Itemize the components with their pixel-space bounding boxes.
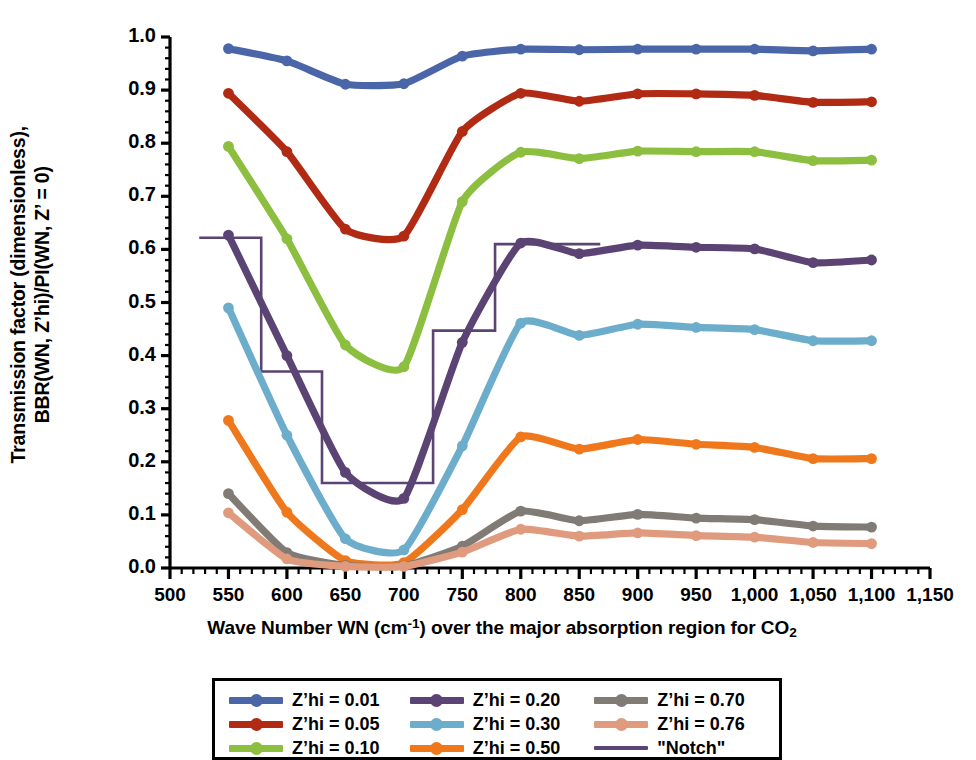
series-marker — [574, 531, 585, 542]
x-axis-title: Wave Number WN (cm-1) over the major abs… — [62, 616, 942, 640]
legend-item[interactable]: Z’hi = 0.05 — [229, 713, 410, 735]
series-marker — [632, 528, 643, 539]
series-marker — [749, 44, 760, 55]
series-marker — [340, 533, 351, 544]
y-tick-label: 0.2 — [100, 449, 156, 472]
series-marker — [632, 88, 643, 99]
legend-column-0: Z’hi = 0.01Z’hi = 0.05Z’hi = 0.10 — [229, 689, 410, 759]
series-marker — [340, 561, 351, 572]
series-marker — [282, 56, 293, 67]
series-1 — [223, 88, 877, 242]
series-marker — [808, 45, 819, 56]
series-marker — [515, 318, 526, 329]
series-marker — [749, 90, 760, 101]
series-marker — [866, 522, 877, 533]
series-marker — [632, 146, 643, 157]
series-marker — [574, 330, 585, 341]
series-marker — [574, 44, 585, 55]
series-marker — [866, 44, 877, 55]
legend-item[interactable]: Z’hi = 0.30 — [410, 713, 595, 735]
legend-swatch-icon — [229, 714, 283, 734]
series-marker — [282, 233, 293, 244]
series-marker — [457, 126, 468, 137]
series-marker — [515, 524, 526, 535]
y-tick-label: 0.3 — [100, 396, 156, 419]
series-marker — [282, 146, 293, 157]
legend-item[interactable]: "Notch" — [594, 737, 769, 759]
series-marker — [632, 319, 643, 330]
y-tick-label: 0.0 — [100, 555, 156, 578]
legend-item[interactable]: Z’hi = 0.01 — [229, 689, 410, 711]
series-marker — [282, 554, 293, 565]
legend-swatch-icon — [594, 690, 648, 710]
series-marker — [457, 547, 468, 558]
legend-column-2: Z’hi = 0.70Z’hi = 0.76"Notch" — [594, 689, 769, 759]
legend-label: Z’hi = 0.50 — [473, 738, 561, 759]
series-marker — [574, 96, 585, 107]
series-marker — [398, 545, 409, 556]
series-marker — [223, 141, 234, 152]
series-marker — [515, 88, 526, 99]
y-tick-label: 0.6 — [100, 236, 156, 259]
series-marker — [457, 337, 468, 348]
series-marker — [691, 146, 702, 157]
y-tick-label: 0.4 — [100, 343, 156, 366]
series-marker — [574, 515, 585, 526]
notch-step-line — [199, 238, 600, 483]
series-marker — [398, 493, 409, 504]
series-marker — [515, 506, 526, 517]
series-marker — [457, 440, 468, 451]
series-marker — [808, 257, 819, 268]
legend-item[interactable]: Z’hi = 0.70 — [594, 689, 769, 711]
legend-swatch-icon — [229, 690, 283, 710]
series-marker — [340, 79, 351, 90]
x-tick-label: 1,150 — [885, 584, 975, 606]
series-marker — [515, 44, 526, 55]
series-marker — [574, 153, 585, 164]
notch-series — [199, 238, 600, 483]
series-line — [228, 49, 871, 86]
data-series-group — [223, 43, 877, 572]
series-marker — [223, 302, 234, 313]
legend-swatch-icon — [410, 690, 464, 710]
legend-swatch-icon — [594, 738, 648, 758]
series-line — [228, 93, 871, 240]
series-marker — [749, 243, 760, 254]
y-tick-label: 0.8 — [100, 130, 156, 153]
series-marker — [749, 324, 760, 335]
legend-label: "Notch" — [657, 738, 725, 759]
y-tick-label: 0.9 — [100, 77, 156, 100]
legend-label: Z’hi = 0.10 — [292, 738, 380, 759]
series-marker — [632, 434, 643, 445]
series-marker — [866, 96, 877, 107]
series-marker — [457, 196, 468, 207]
series-marker — [866, 155, 877, 166]
legend-swatch-icon — [229, 738, 283, 758]
legend-swatch-icon — [410, 738, 464, 758]
series-marker — [340, 467, 351, 478]
y-tick-label: 0.1 — [100, 502, 156, 525]
series-marker — [223, 507, 234, 518]
series-marker — [749, 442, 760, 453]
series-marker — [223, 43, 234, 54]
legend-label: Z’hi = 0.05 — [292, 714, 380, 735]
series-marker — [691, 44, 702, 55]
series-marker — [282, 350, 293, 361]
series-marker — [808, 453, 819, 464]
legend-item[interactable]: Z’hi = 0.76 — [594, 713, 769, 735]
legend-item[interactable]: Z’hi = 0.20 — [410, 689, 595, 711]
series-marker — [691, 88, 702, 99]
series-marker — [866, 453, 877, 464]
series-marker — [340, 340, 351, 351]
series-marker — [398, 561, 409, 572]
series-marker — [457, 51, 468, 62]
series-marker — [223, 230, 234, 241]
legend-item[interactable]: Z’hi = 0.50 — [410, 737, 595, 759]
series-marker — [574, 248, 585, 259]
series-marker — [691, 530, 702, 541]
series-marker — [340, 224, 351, 235]
series-marker — [808, 537, 819, 548]
legend-item[interactable]: Z’hi = 0.10 — [229, 737, 410, 759]
legend-label: Z’hi = 0.20 — [473, 690, 561, 711]
chart-legend: Z’hi = 0.01Z’hi = 0.05Z’hi = 0.10Z’hi = … — [212, 678, 782, 760]
